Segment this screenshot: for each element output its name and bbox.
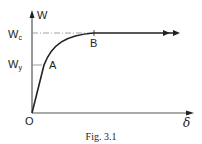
y-axis-arrow-icon xyxy=(30,10,35,18)
point-a-label: A xyxy=(49,59,57,71)
plateau-arrow-icon xyxy=(173,30,180,36)
origin-label: O xyxy=(25,115,34,127)
figure-canvas: W Wc Wy A B O δ Fig. 3.1 xyxy=(0,0,202,144)
y-axis-label: W xyxy=(37,9,48,21)
point-b-label: B xyxy=(90,37,97,49)
plateau-arrow-icon xyxy=(163,30,170,36)
figure-caption: Fig. 3.1 xyxy=(86,131,117,142)
x-axis-label: δ xyxy=(183,116,190,130)
wy-label: Wy xyxy=(8,58,22,72)
wc-label: Wc xyxy=(8,28,22,41)
x-axis-arrow-icon xyxy=(186,111,194,116)
load-deflection-curve xyxy=(32,33,178,113)
